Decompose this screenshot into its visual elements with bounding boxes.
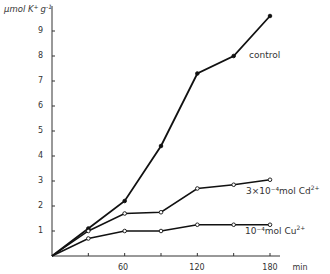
y-tick-6: 6 [38,101,43,110]
data-point-marker [87,229,91,233]
data-point-marker [123,212,127,216]
x-tick-120: 120 [189,263,204,272]
y-tick-labels: 1 2 3 4 5 6 7 8 9 [38,26,43,235]
series-label-control: control [249,50,280,60]
y-tick-1: 1 [38,226,43,235]
data-point-marker [123,229,127,233]
series-line-1 [52,180,270,256]
y-tick-9: 9 [38,26,43,35]
y-tick-3: 3 [38,176,43,185]
y-tick-8: 8 [38,51,43,60]
data-point-marker [196,223,200,227]
y-tick-5: 5 [38,126,43,135]
y-axis-label: μmol K+g-1 [3,3,52,14]
series-lines [52,14,272,256]
data-point-marker [87,237,91,241]
data-point-marker [159,210,163,214]
x-tick-labels: 60 120 180 min [118,263,308,272]
data-point-marker [123,199,127,203]
series-line-0 [52,16,270,256]
x-tick-180: 180 [262,263,277,272]
y-tick-2: 2 [38,201,43,210]
data-point-marker [159,144,163,148]
x-tick-60: 60 [118,263,128,272]
data-point-marker [159,229,163,233]
data-point-marker [268,178,272,182]
y-tick-4: 4 [38,151,43,160]
data-point-marker [196,187,200,191]
series-label-cu: 10⁻⁴mol Cu2+ [245,224,305,236]
x-axis-label: min [292,263,307,272]
data-point-marker [268,14,272,18]
data-point-marker [232,54,236,58]
data-point-marker [196,72,200,76]
y-tick-7: 7 [38,76,43,85]
series-label-cd: 3×10⁻⁴mol Cd2+ [246,184,320,196]
potassium-uptake-chart: 1 2 3 4 5 6 7 8 9 μmol K+g-1 60 120 180 … [0,0,330,274]
data-point-marker [232,183,236,187]
data-point-marker [232,223,236,227]
